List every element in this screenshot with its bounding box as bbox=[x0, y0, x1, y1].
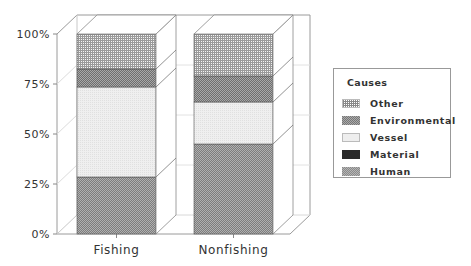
legend-item-environmental: Environmental bbox=[342, 113, 456, 127]
y-tick-label: 0% bbox=[32, 228, 50, 241]
legend-item-human: Human bbox=[342, 164, 411, 178]
legend-swatch-other bbox=[342, 99, 360, 108]
legend-title: Causes bbox=[347, 77, 387, 88]
y-tick-label: 50% bbox=[24, 128, 50, 141]
legend-label: Other bbox=[370, 98, 404, 109]
bars-group bbox=[77, 15, 293, 234]
legend-label: Vessel bbox=[370, 132, 408, 143]
bar-segment-other bbox=[194, 34, 273, 76]
bar-segment-vessel bbox=[77, 87, 156, 177]
x-category-label: Fishing bbox=[94, 243, 140, 257]
legend-label: Material bbox=[370, 149, 419, 160]
bar-segment-human bbox=[194, 144, 273, 234]
bar-segment-environmental bbox=[194, 76, 273, 102]
bar-nonfishing bbox=[194, 15, 293, 234]
legend-swatch-human bbox=[342, 167, 360, 176]
bar-fishing bbox=[77, 15, 176, 234]
y-tick-label: 25% bbox=[24, 178, 50, 191]
legend-item-vessel: Vessel bbox=[342, 130, 408, 144]
legend-item-other: Other bbox=[342, 96, 404, 110]
legend-label: Environmental bbox=[370, 115, 456, 126]
legend: Causes Other Environmental Vessel Materi… bbox=[333, 68, 451, 178]
x-category-label: Nonfishing bbox=[199, 243, 269, 257]
legend-label: Human bbox=[370, 166, 411, 177]
legend-item-material: Material bbox=[342, 147, 419, 161]
legend-swatch-vessel bbox=[342, 133, 360, 142]
bar-segment-other bbox=[77, 34, 156, 69]
y-tick-label: 100% bbox=[17, 28, 50, 41]
y-tick-label: 75% bbox=[24, 78, 50, 91]
legend-swatch-environmental bbox=[342, 116, 360, 125]
bar-segment-environmental bbox=[77, 69, 156, 87]
bar-segment-vessel bbox=[194, 102, 273, 144]
bar-segment-human bbox=[77, 177, 156, 234]
legend-swatch-material bbox=[342, 150, 360, 159]
